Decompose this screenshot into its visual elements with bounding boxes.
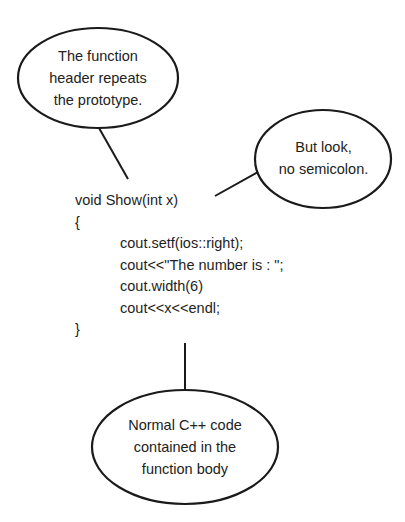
callout-body-line: contained in the	[92, 436, 278, 458]
code-line-close-brace: }	[75, 319, 283, 341]
callout-header-text: The function header repeats the prototyp…	[18, 45, 178, 111]
callout-body-line: function body	[92, 458, 278, 480]
callout-semicolon-line: But look,	[255, 136, 392, 158]
code-line-signature: void Show(int x)	[75, 190, 283, 212]
callout-header-pointer	[99, 128, 128, 179]
code-line-print-label: cout<<"The number is : ";	[75, 255, 283, 277]
code-line-setf: cout.setf(ios::right);	[75, 233, 283, 255]
code-line-print-value: cout<<x<<endl;	[75, 298, 283, 320]
code-listing: void Show(int x) { cout.setf(ios::right)…	[75, 190, 283, 341]
callout-semicolon-line: no semicolon.	[255, 158, 392, 180]
callout-header-line: header repeats	[18, 67, 178, 89]
callout-semicolon-text: But look, no semicolon.	[255, 136, 392, 180]
code-line-open-brace: {	[75, 212, 283, 234]
callout-header-line: The function	[18, 45, 178, 67]
callout-header-line: the prototype.	[18, 89, 178, 111]
code-line-width: cout.width(6)	[75, 276, 283, 298]
callout-body-text: Normal C++ code contained in the functio…	[92, 414, 278, 480]
callout-body-line: Normal C++ code	[92, 414, 278, 436]
